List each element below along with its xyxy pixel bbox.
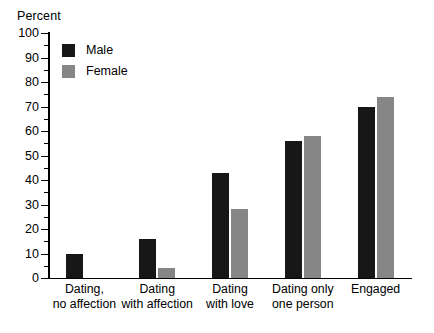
y-tick-label: 80 (25, 76, 39, 89)
y-tick-mark (41, 33, 48, 34)
legend-swatch-male-icon (62, 44, 75, 57)
x-category-label: Engaged (333, 282, 418, 297)
bar-male (285, 141, 302, 278)
bar-male (212, 173, 229, 278)
legend-label-female: Female (86, 65, 128, 78)
y-tick-mark (41, 82, 48, 83)
y-tick-mark (41, 278, 48, 279)
bar-chart: Percent 0102030405060708090100 Dating, n… (0, 0, 434, 333)
y-tick-label: 30 (25, 198, 39, 211)
legend-label-male: Male (86, 44, 113, 57)
y-tick-label: 90 (25, 51, 39, 64)
bar-male (66, 254, 83, 279)
bar-male (358, 107, 375, 279)
legend-swatch-female-icon (62, 65, 75, 78)
bar-female (304, 136, 321, 278)
y-tick-mark (41, 205, 48, 206)
y-tick-label: 60 (25, 125, 39, 138)
y-tick-label: 70 (25, 100, 39, 113)
y-tick-label: 0 (32, 272, 39, 285)
bar-female (158, 268, 175, 278)
legend-item-female: Female (62, 61, 128, 82)
y-tick-mark (41, 131, 48, 132)
y-tick-mark (41, 229, 48, 230)
chart-legend: Male Female (62, 40, 128, 82)
bar-female (377, 97, 394, 278)
y-tick-label: 10 (25, 247, 39, 260)
bar-male (139, 239, 156, 278)
y-tick-label: 50 (25, 149, 39, 162)
legend-item-male: Male (62, 40, 128, 61)
y-tick-mark (41, 58, 48, 59)
y-tick-label: 20 (25, 223, 39, 236)
y-tick-label: 40 (25, 174, 39, 187)
y-tick-mark (41, 107, 48, 108)
y-tick-label: 100 (18, 27, 39, 40)
y-tick-mark (41, 180, 48, 181)
y-tick-mark (41, 156, 48, 157)
y-tick-mark (41, 254, 48, 255)
bar-female (231, 209, 248, 278)
y-axis-title: Percent (17, 9, 61, 23)
